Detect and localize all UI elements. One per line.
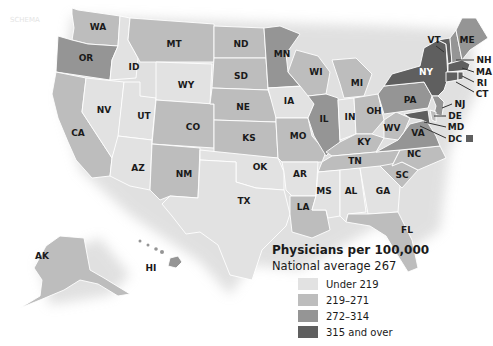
legend-swatch <box>298 278 318 290</box>
label-MO: MO <box>290 131 307 141</box>
label-IL: IL <box>319 114 328 124</box>
label-FL: FL <box>401 225 413 235</box>
legend: Physicians per 100,000 National average … <box>272 242 429 340</box>
legend-swatch <box>298 294 318 306</box>
legend-item-under-219: Under 219 <box>298 276 429 292</box>
legend-swatch <box>298 326 318 338</box>
label-DE: DE <box>448 111 462 121</box>
label-MD: MD <box>448 122 464 132</box>
label-MN: MN <box>274 49 291 59</box>
label-LA: LA <box>297 202 310 212</box>
label-WI: WI <box>309 67 322 77</box>
legend-subtitle: National average 267 <box>272 258 429 274</box>
label-TX: TX <box>237 196 250 206</box>
label-CA: CA <box>71 128 85 138</box>
label-HI: HI <box>146 263 157 273</box>
label-WA: WA <box>90 22 107 32</box>
legend-swatch <box>298 310 318 322</box>
label-IN: IN <box>345 112 356 122</box>
state-CT[interactable] <box>446 72 458 82</box>
label-KS: KS <box>242 133 255 143</box>
label-NM: NM <box>176 169 193 179</box>
legend-item-219-271: 219–271 <box>298 292 429 308</box>
label-NE: NE <box>236 102 250 112</box>
label-VA: VA <box>411 128 424 138</box>
state-CO[interactable] <box>152 100 214 148</box>
label-ID: ID <box>129 62 140 72</box>
label-MS: MS <box>316 186 331 196</box>
legend-label: 219–271 <box>326 295 369 306</box>
state-AR[interactable] <box>282 162 318 196</box>
label-AZ: AZ <box>131 163 145 173</box>
dc-swatch <box>466 135 473 142</box>
label-DC: DC <box>448 134 462 144</box>
label-VT: VT <box>427 35 441 45</box>
label-NJ: NJ <box>455 99 466 109</box>
label-MA: MA <box>476 67 492 77</box>
label-AR: AR <box>293 169 307 179</box>
label-MT: MT <box>166 39 182 49</box>
label-OR: OR <box>79 53 94 63</box>
legend-label: 315 and over <box>326 327 393 338</box>
label-GA: GA <box>376 186 390 196</box>
label-NH: NH <box>476 55 491 65</box>
label-ND: ND <box>233 39 248 49</box>
label-CT: CT <box>476 89 490 99</box>
label-WV: WV <box>384 123 401 133</box>
label-NV: NV <box>97 105 112 115</box>
legend-label: Under 219 <box>326 279 379 290</box>
label-MI: MI <box>351 78 363 88</box>
label-WY: WY <box>178 80 195 90</box>
legend-item-272-314: 272–314 <box>298 308 429 324</box>
label-SC: SC <box>395 170 408 180</box>
legend-label: 272–314 <box>326 311 369 322</box>
label-NC: NC <box>407 149 422 159</box>
label-OK: OK <box>253 162 269 172</box>
label-CO: CO <box>186 122 201 132</box>
label-TN: TN <box>348 156 362 166</box>
label-RI: RI <box>477 78 487 88</box>
label-KY: KY <box>357 137 371 147</box>
label-SD: SD <box>234 71 248 81</box>
label-NY: NY <box>419 67 434 77</box>
label-IA: IA <box>284 96 294 106</box>
label-AL: AL <box>345 186 358 196</box>
label-ME: ME <box>459 35 474 45</box>
label-UT: UT <box>137 111 151 121</box>
legend-title: Physicians per 100,000 <box>272 242 429 258</box>
legend-item-315-over: 315 and over <box>298 324 429 340</box>
label-PA: PA <box>404 95 417 105</box>
label-AK: AK <box>35 251 50 261</box>
label-OH: OH <box>366 106 381 116</box>
